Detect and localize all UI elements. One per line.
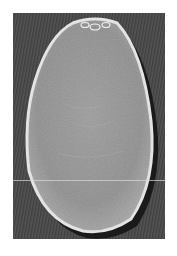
micrograph-panel <box>13 13 165 239</box>
scan-line-artifact <box>13 180 165 181</box>
seed-illustration <box>13 13 165 239</box>
